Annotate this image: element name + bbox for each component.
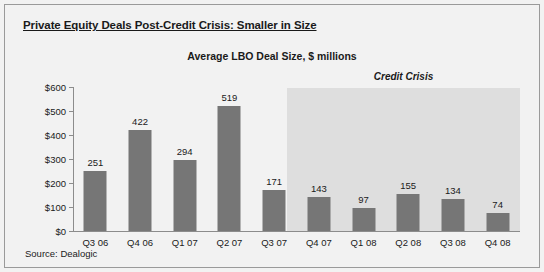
x-axis-category-label: Q2 07	[216, 237, 242, 248]
bar	[84, 171, 107, 231]
chart-screenshot: Private Equity Deals Post-Credit Crisis:…	[0, 0, 544, 272]
bar-value-label: 74	[492, 199, 503, 210]
bar-group: 171Q3 07	[252, 87, 297, 231]
bar	[173, 160, 196, 231]
chart-subtitle: Average LBO Deal Size, $ millions	[5, 50, 539, 62]
bar-group: 74Q4 08	[475, 87, 520, 231]
bar-value-label: 422	[132, 116, 148, 127]
bar-group: 519Q2 07	[207, 87, 252, 231]
bar	[263, 190, 286, 231]
bar	[441, 199, 464, 231]
y-axis-tick-label: $600	[45, 82, 66, 93]
x-axis-category-label: Q3 07	[261, 237, 287, 248]
x-axis-category-label: Q1 07	[172, 237, 198, 248]
bar-group: 422Q4 06	[118, 87, 163, 231]
plot-area: Credit Crisis $0$100$200$300$400$500$600…	[23, 67, 529, 245]
bar-value-label: 171	[266, 176, 282, 187]
y-axis-tick-label: $400	[45, 130, 66, 141]
axes: $0$100$200$300$400$500$600 251Q3 06422Q4…	[73, 87, 520, 232]
x-axis-category-label: Q4 08	[485, 237, 511, 248]
x-axis-category-label: Q3 08	[440, 237, 466, 248]
bar-group: 97Q1 08	[341, 87, 386, 231]
bar-group: 294Q1 07	[162, 87, 207, 231]
y-axis-tick	[69, 231, 73, 232]
bar	[307, 197, 330, 231]
y-axis-tick-label: $200	[45, 178, 66, 189]
bar-value-label: 519	[222, 92, 238, 103]
y-axis-tick-label: $100	[45, 202, 66, 213]
bars-layer: 251Q3 06422Q4 06294Q1 07519Q2 07171Q3 07…	[73, 87, 520, 231]
bar	[486, 213, 509, 231]
bar-value-label: 97	[358, 194, 369, 205]
bar-group: 134Q3 08	[431, 87, 476, 231]
source-note: Source: Dealogic	[25, 248, 97, 259]
x-axis-category-label: Q4 06	[127, 237, 153, 248]
bar-group: 155Q2 08	[386, 87, 431, 231]
bar	[218, 106, 241, 231]
bar-value-label: 251	[87, 157, 103, 168]
bar-value-label: 155	[400, 180, 416, 191]
y-axis-tick-label: $300	[45, 154, 66, 165]
y-axis-tick-label: $0	[55, 226, 66, 237]
bar	[129, 130, 152, 231]
bar-group: 251Q3 06	[73, 87, 118, 231]
bar	[397, 194, 420, 231]
bar-value-label: 294	[177, 146, 193, 157]
y-axis-tick-label: $500	[45, 106, 66, 117]
x-axis-category-label: Q2 08	[395, 237, 421, 248]
bar-group: 143Q4 07	[297, 87, 342, 231]
bar	[352, 208, 375, 231]
chart-frame: Private Equity Deals Post-Credit Crisis:…	[4, 4, 540, 268]
credit-crisis-annotation: Credit Crisis	[287, 71, 520, 82]
x-axis-line	[73, 231, 520, 232]
bar-value-label: 134	[445, 185, 461, 196]
x-axis-category-label: Q1 08	[351, 237, 377, 248]
bar-value-label: 143	[311, 183, 327, 194]
page-title: Private Equity Deals Post-Credit Crisis:…	[23, 19, 317, 31]
x-axis-category-label: Q4 07	[306, 237, 332, 248]
x-axis-category-label: Q3 06	[82, 237, 108, 248]
